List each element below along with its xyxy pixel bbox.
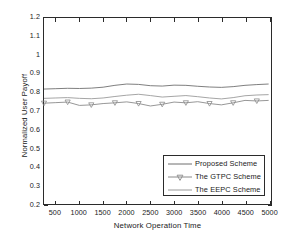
x-tick-mark bbox=[150, 18, 151, 22]
x-tick-mark bbox=[79, 18, 80, 22]
legend-label: The GTPC Scheme bbox=[195, 172, 261, 181]
chart-legend: Proposed Scheme The GTPC Scheme The EEPC… bbox=[163, 155, 265, 196]
x-tick-mark bbox=[246, 201, 247, 205]
series-line bbox=[44, 84, 269, 89]
x-tick-mark bbox=[103, 18, 104, 22]
x-tick-label: 5000 bbox=[250, 208, 290, 217]
x-tick-mark bbox=[55, 18, 56, 22]
y-axis-label: Normalized User Payoff bbox=[20, 46, 29, 186]
y-tick-label: 0.8 bbox=[30, 88, 40, 96]
y-tick-label: 0.9 bbox=[30, 69, 40, 77]
legend-label: The EEPC Scheme bbox=[195, 185, 261, 194]
y-tick-label: 1.1 bbox=[30, 32, 40, 40]
chart-figure: Normalized User Payoff 0.20.30.40.50.60.… bbox=[0, 0, 299, 245]
x-tick-mark bbox=[222, 18, 223, 22]
x-tick-mark bbox=[126, 201, 127, 205]
x-tick-mark bbox=[150, 201, 151, 205]
y-tick-label: 1.2 bbox=[30, 13, 40, 21]
x-tick-mark bbox=[270, 201, 271, 205]
x-tick-mark bbox=[79, 201, 80, 205]
legend-item-gtpc-scheme: The GTPC Scheme bbox=[164, 170, 264, 183]
x-tick-mark bbox=[222, 201, 223, 205]
x-tick-mark bbox=[55, 201, 56, 205]
legend-item-proposed-scheme: Proposed Scheme bbox=[164, 157, 264, 170]
legend-label: Proposed Scheme bbox=[195, 159, 257, 168]
legend-item-eepc-scheme: The EEPC Scheme bbox=[164, 183, 264, 196]
y-tick-label: 0.3 bbox=[30, 182, 40, 190]
x-tick-mark bbox=[270, 18, 271, 22]
y-tick-label: 0.4 bbox=[30, 163, 40, 171]
x-axis-label: Network Operation Time bbox=[43, 221, 272, 230]
series-line bbox=[44, 94, 269, 99]
y-tick-mark bbox=[268, 205, 272, 206]
x-tick-mark bbox=[174, 201, 175, 205]
y-tick-label: 0.7 bbox=[30, 107, 40, 115]
y-tick-label: 0.6 bbox=[30, 126, 40, 134]
x-tick-mark bbox=[103, 201, 104, 205]
y-tick-label: 1 bbox=[36, 51, 40, 59]
x-tick-mark bbox=[198, 18, 199, 22]
x-tick-mark bbox=[246, 18, 247, 22]
y-tick-mark bbox=[44, 205, 48, 206]
x-tick-mark bbox=[126, 18, 127, 22]
y-tick-label: 0.5 bbox=[30, 145, 40, 153]
x-tick-mark bbox=[198, 201, 199, 205]
x-tick-mark bbox=[174, 18, 175, 22]
legend-triangle-down-marker-icon bbox=[167, 171, 193, 183]
legend-line-sample-icon bbox=[167, 158, 193, 170]
series-line bbox=[44, 100, 269, 106]
legend-line-sample-icon bbox=[167, 184, 193, 196]
